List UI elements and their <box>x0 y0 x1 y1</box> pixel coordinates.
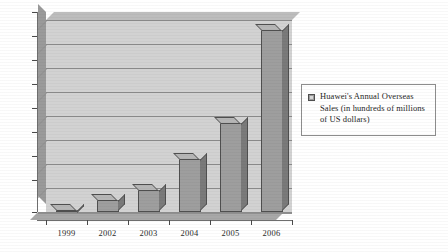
x-axis-tick <box>128 220 129 225</box>
y-axis-tick <box>32 108 37 109</box>
bar-2005 <box>220 123 242 212</box>
gridline <box>46 188 292 189</box>
gridline <box>46 20 292 21</box>
y-axis-tick <box>32 180 37 181</box>
x-axis-label-2005: 2005 <box>222 228 240 238</box>
x-axis-label-2006: 2006 <box>263 228 281 238</box>
y-axis-tick <box>32 84 37 85</box>
chart-legend: Huawei's Annual Overseas Sales (in hundr… <box>301 84 436 136</box>
legend-item-label: Huawei's Annual Overseas Sales (in hundr… <box>320 91 429 126</box>
y-axis-tick <box>32 60 37 61</box>
gridline <box>46 116 292 117</box>
x-axis-label-1999: 1999 <box>58 228 76 238</box>
bar-chart: 01020304050607080 1999200220032004200520… <box>0 0 448 252</box>
bar-2003 <box>138 190 160 212</box>
y-axis-tick <box>32 156 37 157</box>
x-axis-label-2003: 2003 <box>140 228 158 238</box>
y-axis-tick <box>32 132 37 133</box>
y-axis-tick <box>32 36 37 37</box>
y-axis-tick <box>32 212 37 213</box>
bar-1999 <box>56 210 78 212</box>
x-axis-tick <box>87 220 88 225</box>
x-axis-tick <box>292 220 293 225</box>
bar-side-face <box>241 117 248 211</box>
x-axis-label-2004: 2004 <box>181 228 199 238</box>
x-axis-tick <box>251 220 252 225</box>
x-axis-tick <box>210 220 211 225</box>
x-axis-line <box>37 220 293 221</box>
gridline <box>46 68 292 69</box>
y-axis-tick <box>32 12 37 13</box>
gridline <box>46 92 292 93</box>
bar-side-face <box>282 24 289 211</box>
series-color-swatch-icon <box>308 94 315 101</box>
x-axis-tick <box>46 220 47 225</box>
plot-left-wall <box>38 4 46 204</box>
gridline <box>46 44 292 45</box>
bar-2002 <box>97 200 119 212</box>
x-axis-label-2002: 2002 <box>99 228 117 238</box>
legend-item: Huawei's Annual Overseas Sales (in hundr… <box>308 91 429 126</box>
gridline <box>46 140 292 141</box>
y-axis-line <box>37 12 38 212</box>
bar-side-face <box>200 153 207 211</box>
x-axis-tick <box>169 220 170 225</box>
bar-2006 <box>261 30 283 212</box>
gridline <box>46 164 292 165</box>
plot-top-slab <box>46 12 300 20</box>
bar-2004 <box>179 159 201 212</box>
